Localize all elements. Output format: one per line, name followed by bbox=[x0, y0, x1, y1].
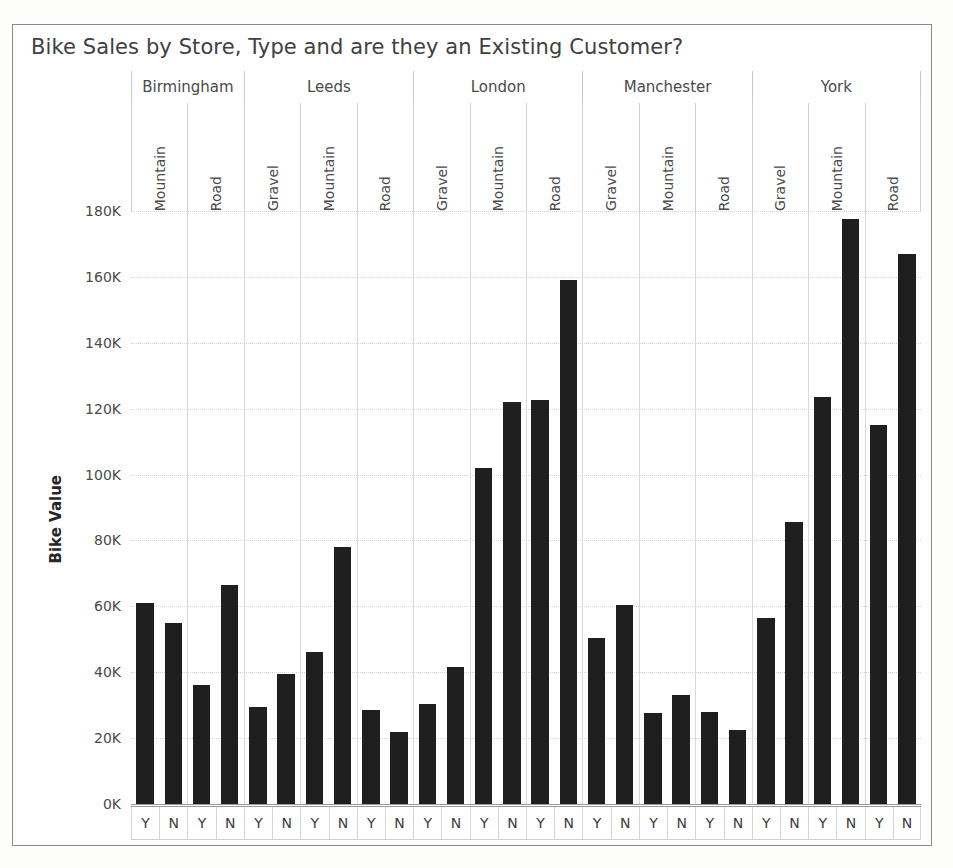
bar[interactable] bbox=[221, 585, 238, 804]
type-header-label: Mountain bbox=[321, 144, 337, 211]
x-axis-tick-label: Y bbox=[300, 807, 328, 839]
bar[interactable] bbox=[672, 695, 689, 804]
bar[interactable] bbox=[729, 730, 746, 804]
store-header-leeds: Leeds bbox=[244, 71, 413, 103]
bar[interactable] bbox=[362, 710, 379, 804]
x-axis-tick-label: Y bbox=[470, 807, 498, 839]
y-axis-tick-label: 120K bbox=[21, 401, 121, 417]
gridline bbox=[131, 804, 921, 805]
type-header-label: Mountain bbox=[152, 144, 168, 211]
y-axis-tick-label: 100K bbox=[21, 467, 121, 483]
type-header-london-mountain: Mountain bbox=[470, 103, 526, 211]
y-axis-tick-label: 80K bbox=[21, 532, 121, 548]
type-separator bbox=[865, 211, 866, 804]
type-separator bbox=[526, 211, 527, 804]
x-axis-tick-label: N bbox=[272, 807, 300, 839]
chart-title: Bike Sales by Store, Type and are they a… bbox=[31, 35, 683, 59]
bar[interactable] bbox=[390, 732, 407, 804]
y-axis-tick-label: 0K bbox=[21, 796, 121, 812]
type-header-london-gravel: Gravel bbox=[413, 103, 469, 211]
bar[interactable] bbox=[165, 623, 182, 804]
type-header-york-gravel: Gravel bbox=[752, 103, 808, 211]
store-header-york: York bbox=[752, 71, 921, 103]
type-header-leeds-mountain: Mountain bbox=[300, 103, 356, 211]
x-axis-tick-label: N bbox=[385, 807, 413, 839]
bar[interactable] bbox=[475, 468, 492, 804]
bar[interactable] bbox=[588, 638, 605, 804]
bar[interactable] bbox=[306, 652, 323, 804]
bar[interactable] bbox=[701, 712, 718, 804]
type-header-label: Gravel bbox=[603, 163, 619, 211]
type-header-york-mountain: Mountain bbox=[808, 103, 864, 211]
type-separator bbox=[300, 211, 301, 804]
type-separator bbox=[187, 211, 188, 804]
type-header-label: Road bbox=[547, 174, 563, 211]
type-header-label: Mountain bbox=[829, 144, 845, 211]
type-header-birmingham-road: Road bbox=[187, 103, 243, 211]
type-header-label: Road bbox=[716, 174, 732, 211]
type-separator bbox=[752, 211, 753, 804]
bar[interactable] bbox=[644, 713, 661, 804]
x-axis-tick-label: Y bbox=[131, 807, 159, 839]
bar[interactable] bbox=[757, 618, 774, 804]
y-axis-tick-label: 180K bbox=[21, 203, 121, 219]
x-axis-tick-label: N bbox=[893, 807, 921, 839]
bar[interactable] bbox=[814, 397, 831, 804]
type-separator bbox=[695, 211, 696, 804]
store-header-london: London bbox=[413, 71, 582, 103]
type-separator bbox=[244, 211, 245, 804]
type-separator bbox=[582, 211, 583, 804]
type-header-manchester-gravel: Gravel bbox=[582, 103, 638, 211]
type-separator bbox=[413, 211, 414, 804]
y-axis-title: Bike Value bbox=[47, 475, 65, 563]
x-axis-tick-label: N bbox=[441, 807, 469, 839]
y-axis-tick-label: 140K bbox=[21, 335, 121, 351]
x-axis-tick-label: Y bbox=[695, 807, 723, 839]
type-separator bbox=[639, 211, 640, 804]
x-axis-bottom-rule bbox=[131, 839, 921, 840]
bar[interactable] bbox=[419, 704, 436, 804]
x-axis-tick-label: Y bbox=[244, 807, 272, 839]
type-header-label: Road bbox=[885, 174, 901, 211]
bar[interactable] bbox=[560, 280, 577, 804]
type-header-manchester-road: Road bbox=[695, 103, 751, 211]
store-header-row: BirminghamLeedsLondonManchesterYork bbox=[131, 71, 921, 103]
bar[interactable] bbox=[136, 603, 153, 804]
bar[interactable] bbox=[503, 402, 520, 804]
x-axis-tick-label: Y bbox=[752, 807, 780, 839]
x-axis-tick-label: N bbox=[836, 807, 864, 839]
bar[interactable] bbox=[870, 425, 887, 804]
type-header-leeds-gravel: Gravel bbox=[244, 103, 300, 211]
x-axis-tick-label: Y bbox=[865, 807, 893, 839]
x-axis-tick-label: Y bbox=[357, 807, 385, 839]
y-axis-tick-label: 160K bbox=[21, 269, 121, 285]
x-axis-tick-label: N bbox=[554, 807, 582, 839]
type-header-label: Gravel bbox=[434, 163, 450, 211]
bar[interactable] bbox=[785, 522, 802, 804]
type-separator bbox=[808, 211, 809, 804]
type-header-label: Gravel bbox=[265, 163, 281, 211]
type-header-label: Mountain bbox=[490, 144, 506, 211]
bar[interactable] bbox=[447, 667, 464, 804]
bar[interactable] bbox=[249, 707, 266, 804]
bar[interactable] bbox=[842, 219, 859, 804]
bar[interactable] bbox=[531, 400, 548, 804]
bar[interactable] bbox=[277, 674, 294, 804]
bar[interactable] bbox=[334, 547, 351, 804]
x-axis-tick-label: Y bbox=[582, 807, 610, 839]
chart-frame: Bike Sales by Store, Type and are they a… bbox=[12, 24, 932, 846]
type-header-row: MountainRoadGravelMountainRoadGravelMoun… bbox=[131, 103, 921, 211]
bar[interactable] bbox=[193, 685, 210, 804]
type-header-label: Road bbox=[208, 174, 224, 211]
x-axis-tick-label: Y bbox=[526, 807, 554, 839]
type-header-leeds-road: Road bbox=[357, 103, 413, 211]
store-header-birmingham: Birmingham bbox=[131, 71, 244, 103]
y-axis-tick-label: 40K bbox=[21, 664, 121, 680]
x-axis-tick-label: N bbox=[780, 807, 808, 839]
x-axis-tick-label: N bbox=[667, 807, 695, 839]
type-separator bbox=[357, 211, 358, 804]
x-axis-tick-label: N bbox=[216, 807, 244, 839]
bar[interactable] bbox=[898, 254, 915, 804]
type-separator bbox=[470, 211, 471, 804]
bar[interactable] bbox=[616, 605, 633, 804]
